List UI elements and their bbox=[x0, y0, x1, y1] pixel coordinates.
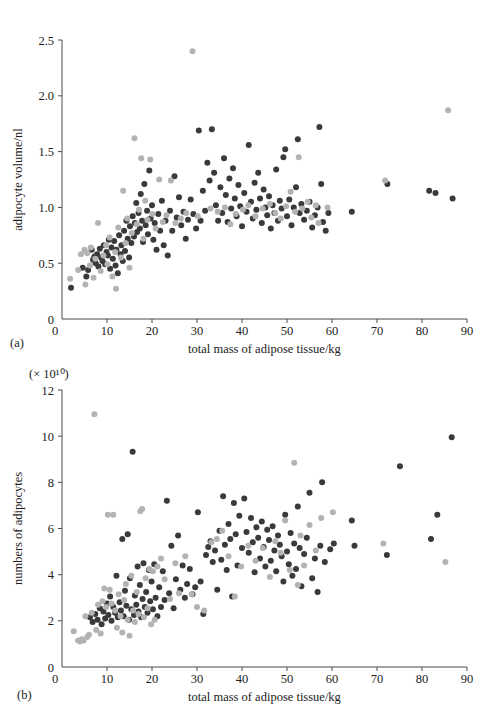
data-point bbox=[223, 192, 229, 198]
data-point bbox=[268, 558, 274, 564]
data-point bbox=[176, 590, 182, 596]
data-point bbox=[270, 523, 276, 529]
data-point bbox=[217, 184, 223, 190]
data-point bbox=[134, 589, 140, 595]
data-point bbox=[149, 579, 155, 585]
data-point bbox=[118, 255, 124, 261]
data-point bbox=[236, 513, 242, 519]
x-tick-label: 80 bbox=[416, 324, 429, 338]
data-point bbox=[82, 613, 88, 619]
data-point bbox=[221, 155, 227, 161]
data-point bbox=[323, 228, 329, 234]
data-point bbox=[127, 223, 133, 229]
data-point bbox=[141, 614, 147, 620]
data-point bbox=[155, 211, 161, 217]
data-point bbox=[213, 202, 219, 208]
data-point bbox=[318, 515, 324, 521]
data-point bbox=[267, 201, 273, 207]
data-point bbox=[110, 256, 116, 262]
data-point bbox=[113, 286, 119, 292]
data-point bbox=[82, 281, 88, 287]
data-point bbox=[215, 209, 221, 215]
data-point bbox=[168, 543, 174, 549]
data-point bbox=[380, 541, 386, 547]
data-point bbox=[305, 199, 311, 205]
data-point bbox=[299, 206, 305, 212]
data-point bbox=[198, 579, 204, 585]
data-point bbox=[215, 218, 221, 224]
data-point bbox=[241, 495, 247, 501]
data-point bbox=[195, 213, 201, 219]
data-point bbox=[130, 449, 136, 455]
data-point bbox=[116, 232, 122, 238]
data-point bbox=[162, 576, 168, 582]
data-point bbox=[331, 541, 337, 547]
x-axis-title: total mass of adipose tissue/kg bbox=[188, 342, 342, 356]
data-point bbox=[115, 270, 121, 276]
data-point bbox=[277, 198, 283, 204]
data-point bbox=[232, 594, 238, 600]
data-point bbox=[233, 531, 239, 537]
data-point bbox=[282, 517, 288, 523]
data-point bbox=[100, 598, 106, 604]
data-point bbox=[130, 213, 136, 219]
data-point bbox=[260, 545, 266, 551]
data-point bbox=[121, 228, 127, 234]
data-point bbox=[152, 220, 158, 226]
data-point bbox=[312, 556, 318, 562]
data-point bbox=[308, 214, 314, 220]
data-point bbox=[298, 532, 304, 538]
x-tick-label: 30 bbox=[191, 672, 204, 686]
data-point bbox=[267, 574, 273, 580]
data-point bbox=[125, 617, 131, 623]
x-tick-label: 0 bbox=[52, 672, 58, 686]
x-tick-label: 20 bbox=[146, 324, 159, 338]
data-point bbox=[140, 560, 146, 566]
data-point bbox=[172, 220, 178, 226]
data-point bbox=[214, 587, 220, 593]
data-point bbox=[112, 607, 118, 613]
data-point bbox=[118, 607, 124, 613]
data-point bbox=[295, 136, 301, 142]
data-point bbox=[450, 195, 456, 201]
data-point bbox=[284, 213, 290, 219]
data-point bbox=[98, 631, 104, 637]
data-point bbox=[325, 204, 331, 210]
data-point bbox=[433, 190, 439, 196]
data-point bbox=[183, 236, 189, 242]
data-point bbox=[261, 187, 267, 193]
data-point bbox=[201, 607, 207, 613]
data-point bbox=[178, 216, 184, 222]
data-point bbox=[238, 564, 244, 570]
data-point bbox=[141, 181, 147, 187]
data-point bbox=[349, 517, 355, 523]
data-point bbox=[119, 629, 125, 635]
data-point bbox=[162, 597, 168, 603]
x-tick-label: 80 bbox=[416, 672, 429, 686]
data-point bbox=[239, 223, 245, 229]
data-point bbox=[150, 237, 156, 243]
x-tick-label: 60 bbox=[326, 672, 339, 686]
data-point bbox=[203, 552, 209, 558]
data-point bbox=[172, 560, 178, 566]
data-point bbox=[291, 460, 297, 466]
data-point bbox=[244, 529, 250, 535]
panel-b: 0246810120102030405060708090total mass o… bbox=[0, 362, 493, 725]
data-point bbox=[233, 211, 239, 217]
data-point bbox=[188, 197, 194, 203]
data-point bbox=[133, 200, 139, 206]
data-point bbox=[145, 217, 151, 223]
data-point bbox=[152, 617, 158, 623]
data-point bbox=[187, 566, 193, 572]
data-point bbox=[192, 584, 198, 590]
data-point bbox=[183, 210, 189, 216]
data-point bbox=[309, 575, 315, 581]
y-tick-label: 1.5 bbox=[38, 145, 54, 159]
data-point bbox=[168, 178, 174, 184]
data-point bbox=[182, 553, 188, 559]
data-point bbox=[292, 209, 298, 215]
data-point bbox=[140, 236, 146, 242]
data-point bbox=[115, 224, 121, 230]
x-tick-label: 60 bbox=[326, 324, 339, 338]
data-point bbox=[147, 598, 153, 604]
